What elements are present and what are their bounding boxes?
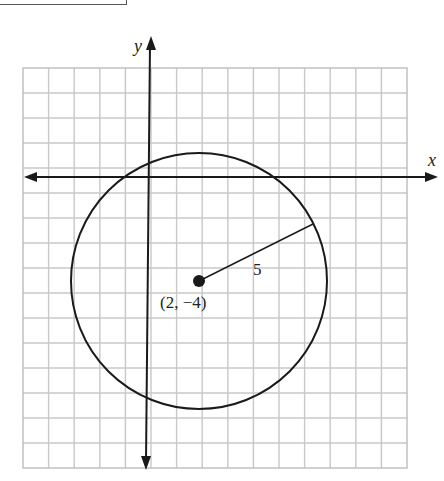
x-axis-left-arrow-icon xyxy=(24,172,37,182)
x-axis-right-arrow-icon xyxy=(425,172,438,182)
y-axis-label: y xyxy=(132,36,142,56)
center-label: (2, −4) xyxy=(160,293,206,312)
center-point xyxy=(193,275,205,287)
x-axis-label: x xyxy=(427,150,436,170)
coordinate-plane: x y 5 (2, −4) xyxy=(0,0,444,481)
y-axis-up-arrow-icon xyxy=(146,36,156,50)
radius-label: 5 xyxy=(253,260,262,279)
